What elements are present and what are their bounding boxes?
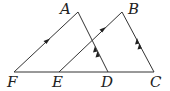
- label-C: C: [150, 75, 161, 90]
- label-D: D: [101, 75, 113, 90]
- figure-lines: [0, 0, 170, 91]
- parallel-arrow-BC-1-icon: [135, 38, 139, 45]
- label-A: A: [60, 2, 71, 17]
- parallel-arrow-BC-2-icon: [138, 43, 142, 50]
- parallel-arrow-EB-icon: [100, 27, 107, 33]
- label-E: E: [52, 75, 63, 90]
- segment-AD: [78, 12, 108, 72]
- geometry-figure: A B C D E F: [0, 0, 170, 91]
- label-B: B: [128, 2, 139, 17]
- label-F: F: [7, 75, 17, 90]
